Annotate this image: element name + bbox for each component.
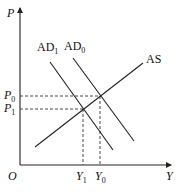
- ad1-curve: [50, 62, 113, 150]
- y-axis-label: P: [6, 6, 15, 20]
- ad0-label: AD0: [64, 39, 85, 55]
- ad0-curve: [73, 58, 134, 141]
- ad-as-diagram: P Y O AS AD1 AD0 P0 P1 Y1 Y0: [0, 0, 176, 192]
- ad1-label: AD1: [37, 40, 58, 56]
- as-curve: [35, 63, 143, 147]
- x-axis-label: Y: [166, 169, 174, 183]
- origin-label: O: [8, 169, 17, 183]
- as-label: AS: [146, 52, 161, 66]
- y1-label: Y1: [76, 169, 87, 185]
- y0-label: Y0: [95, 169, 106, 185]
